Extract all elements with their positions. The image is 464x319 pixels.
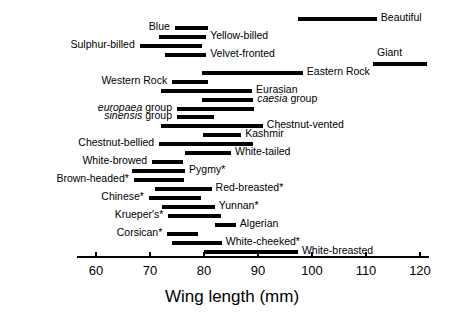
axis-tick-label: 70 (130, 263, 170, 279)
axis-tick (149, 252, 151, 258)
axis-tick (95, 252, 97, 258)
plot-area: BeautifulBlueYellow-billedSulphur-billed… (0, 0, 464, 256)
axis-tick (365, 252, 367, 258)
x-axis: 60708090100110120 Wing length (mm) (0, 256, 464, 319)
axis-tick-label: 80 (184, 263, 224, 279)
range-bar (204, 250, 298, 254)
axis-tick-label: 100 (292, 263, 332, 279)
axis-tick-label: 60 (76, 263, 116, 279)
axis-tick-label: 90 (238, 263, 278, 279)
wing-length-range-chart: BeautifulBlueYellow-billedSulphur-billed… (0, 0, 464, 319)
axis-tick-label: 120 (400, 263, 440, 279)
axis-tick (257, 252, 259, 258)
axis-tick (311, 252, 313, 258)
range-label: Giant (377, 45, 402, 59)
axis-tick-label: 110 (346, 263, 386, 279)
axis-title: Wing length (mm) (0, 286, 464, 308)
axis-tick (203, 252, 205, 258)
axis-tick (419, 252, 421, 258)
axis-line (77, 256, 429, 258)
